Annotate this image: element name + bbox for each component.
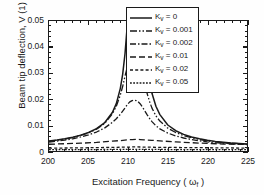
legend-line-swatch — [130, 13, 152, 23]
legend-line-swatch — [130, 39, 152, 49]
legend-label-value: = 0.05 — [164, 77, 189, 86]
legend-label-value: = 0 — [164, 12, 178, 21]
y-axis-title: Beam tip deflection, V (1) — [16, 0, 27, 131]
y-tick-label: 0 — [18, 148, 44, 157]
legend-item: Kv = 0 — [130, 11, 195, 24]
legend-label-value: = 0.02 — [164, 64, 189, 73]
x-tick-label: 215 — [153, 157, 183, 166]
x-tick-label: 210 — [113, 157, 143, 166]
legend-line-swatch — [130, 26, 152, 36]
series-line-4 — [49, 147, 247, 148]
series-line-2 — [49, 100, 247, 144]
y-axis-tick-right — [243, 152, 248, 153]
x-axis-title-close: ) — [198, 176, 204, 187]
x-tick-label: 200 — [33, 157, 63, 166]
legend-item: Kv = 0.002 — [130, 37, 195, 50]
legend-label: Kv = 0.05 — [155, 77, 188, 88]
legend-label: Kv = 0 — [155, 12, 177, 23]
legend-item: Kv = 0.02 — [130, 63, 195, 76]
x-tick-label: 225 — [233, 157, 263, 166]
x-axis-tick-top — [248, 20, 249, 25]
legend-label-value: = 0.002 — [164, 38, 193, 47]
x-axis-tick — [248, 147, 249, 152]
legend-label: Kv = 0.002 — [155, 38, 193, 49]
legend-label-value: = 0.001 — [164, 25, 193, 34]
x-axis-title: Excitation Frequency ( ωf ) — [48, 176, 248, 188]
chart-figure: 200205210215220225 00.010.020.030.040.05… — [0, 0, 264, 195]
legend-item: Kv = 0.05 — [130, 76, 195, 89]
y-axis-tick — [48, 152, 53, 153]
legend-label: Kv = 0.001 — [155, 25, 193, 36]
x-tick-label: 220 — [193, 157, 223, 166]
legend-line-swatch — [130, 52, 152, 62]
legend-item: Kv = 0.001 — [130, 24, 195, 37]
legend-line-swatch — [130, 78, 152, 88]
legend-label: Kv = 0.01 — [155, 51, 188, 62]
legend-label: Kv = 0.02 — [155, 64, 188, 75]
legend-line-swatch — [130, 65, 152, 75]
x-tick-label: 205 — [73, 157, 103, 166]
legend: Kv = 0Kv = 0.001Kv = 0.002Kv = 0.01Kv = … — [126, 7, 199, 93]
legend-label-value: = 0.01 — [164, 51, 189, 60]
legend-item: Kv = 0.01 — [130, 50, 195, 63]
x-axis-title-main: Excitation Frequency ( — [92, 176, 189, 187]
